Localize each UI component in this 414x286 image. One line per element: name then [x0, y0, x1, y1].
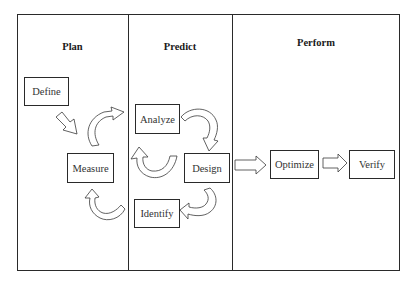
node-identify: Identify — [134, 199, 180, 228]
arrow-measure-to-analyze-icon — [88, 107, 124, 146]
node-optimize: Optimize — [270, 150, 319, 179]
node-design: Design — [184, 153, 230, 183]
arrow-design-to-identify-icon — [180, 188, 216, 219]
node-analyze: Analyze — [135, 104, 180, 134]
arrow-optimize-to-verify-icon — [323, 154, 347, 172]
arrow-design-to-measure-icon — [131, 147, 177, 178]
arrow-identify-to-measure-icon — [85, 189, 125, 220]
arrow-define-to-measure-icon — [56, 112, 77, 134]
node-define: Define — [24, 77, 69, 106]
node-measure: Measure — [67, 153, 114, 183]
node-verify: Verify — [349, 150, 395, 179]
arrows-layer — [0, 0, 414, 286]
arrow-design-to-optimize-icon — [235, 156, 266, 174]
arrow-analyze-to-design-icon — [181, 109, 218, 151]
